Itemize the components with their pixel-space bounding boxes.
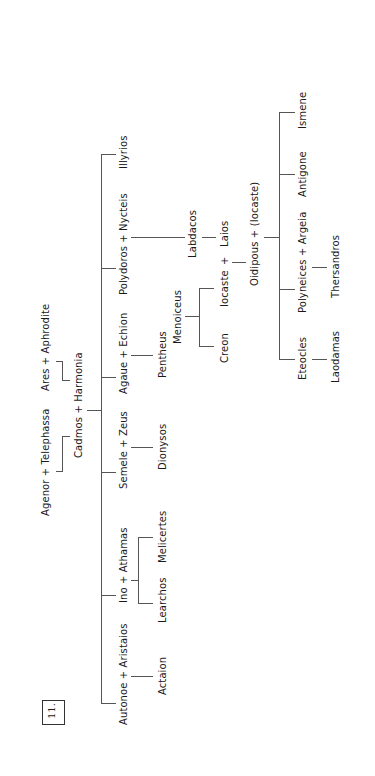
agenor-telephassa: Agenor + Telephassa: [41, 409, 51, 516]
pentheus: Pentheus: [158, 331, 168, 378]
menoiceus: Menoiceus: [173, 290, 183, 344]
connector: [101, 472, 116, 473]
labdacos: Labdacos: [188, 210, 198, 258]
plus-sign: +: [220, 257, 230, 265]
actaion: Actaion: [158, 657, 168, 695]
connector: [138, 537, 139, 604]
learchos: Learchos: [158, 577, 168, 623]
melicertes: Melicertes: [158, 511, 168, 563]
eteocles: Eteocles: [298, 337, 308, 380]
connector: [138, 537, 153, 538]
connector: [199, 288, 200, 347]
connector: [279, 174, 295, 175]
connector: [87, 410, 101, 411]
connector: [312, 267, 327, 268]
connector: [199, 346, 214, 347]
dionysos: Dionysos: [158, 424, 168, 470]
illyrios: Illyrios: [119, 136, 129, 169]
connector: [62, 361, 63, 381]
creon: Creon: [220, 333, 230, 363]
connector: [199, 288, 214, 289]
agaue-echion: Agaue + Echion: [119, 313, 129, 394]
ino-athamas: Ino + Athamas: [119, 527, 129, 603]
connector: [279, 359, 295, 360]
connector: [101, 154, 116, 155]
laios: Laios: [220, 221, 230, 247]
connector: [62, 436, 70, 437]
figure-number-box: 11.: [42, 700, 65, 725]
connector: [101, 703, 116, 704]
connector: [185, 316, 200, 317]
autonoe-aristaios: Autonoe + Aristaios: [119, 623, 129, 725]
connector: [279, 112, 295, 113]
connector: [101, 268, 116, 269]
connector: [131, 237, 185, 238]
connector: [312, 359, 327, 360]
connector: [131, 580, 138, 581]
semele-zeus: Semele + Zeus: [119, 411, 129, 489]
antigone: Antigone: [298, 151, 308, 197]
connector: [131, 676, 153, 677]
connector: [62, 380, 70, 381]
polyneices-argeia: Polyneices + Argeia: [298, 212, 308, 313]
cadmos-harmonia: Cadmos + Harmonia: [74, 352, 84, 458]
connector: [202, 237, 216, 238]
ares-aphrodite: Ares + Aphrodite: [41, 304, 51, 391]
connector: [101, 595, 116, 596]
oidipous-iocaste: Oidipous + (Iocaste): [250, 182, 260, 286]
connector: [62, 436, 63, 472]
ismene: Ismene: [298, 92, 308, 129]
iocaste: Iocaste: [220, 270, 230, 307]
figure-number: 11.: [47, 703, 57, 719]
connector: [101, 377, 116, 378]
connector: [131, 355, 153, 356]
connector: [232, 262, 246, 263]
connector: [279, 289, 295, 290]
connector: [264, 237, 279, 238]
polydoros-nycteis: Polydoros + Nycteis: [119, 193, 129, 295]
main-trunk-line: [101, 154, 102, 704]
connector: [131, 447, 153, 448]
connector: [138, 603, 153, 604]
laodamas: Laodamas: [331, 331, 341, 383]
children-trunk-line: [279, 112, 280, 360]
thersandros: Thersandros: [331, 235, 341, 298]
